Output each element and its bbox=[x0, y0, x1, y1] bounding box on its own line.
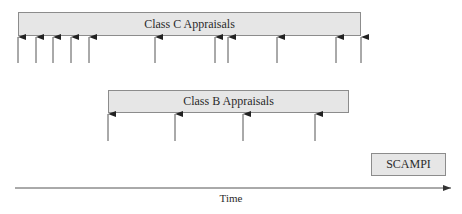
appraisal-arrows-layer bbox=[0, 0, 462, 214]
time-axis-label: Time bbox=[0, 192, 462, 204]
